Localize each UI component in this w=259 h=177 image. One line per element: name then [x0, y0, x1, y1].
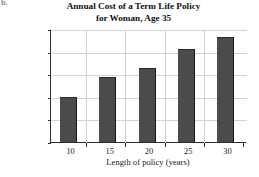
bar — [99, 77, 116, 142]
gridline-vertical — [86, 30, 87, 143]
x-tick-label: 15 — [95, 147, 125, 156]
bar — [178, 49, 195, 142]
chart-title-line-2: for Woman, Age 35 — [26, 13, 241, 25]
bar — [217, 37, 234, 142]
plot-inner: 050100150200250 1015202530 — [51, 30, 246, 142]
y-tick-mark — [48, 120, 52, 121]
plot-area: 050100150200250 1015202530 — [50, 30, 246, 143]
bar — [60, 97, 77, 142]
chart-title: Annual Cost of a Term Life Policy for Wo… — [26, 1, 241, 24]
y-tick-mark — [48, 143, 52, 144]
x-tick-label: 10 — [56, 147, 86, 156]
bar — [139, 68, 156, 142]
problem-part-label: b. — [1, 0, 7, 8]
x-tick-label: 30 — [212, 147, 242, 156]
x-tick-mark — [204, 143, 205, 147]
chart-title-line-1: Annual Cost of a Term Life Policy — [26, 1, 241, 13]
y-tick-mark — [48, 75, 52, 76]
x-axis-label: Length of policy (years) — [50, 158, 246, 167]
x-tick-mark — [243, 143, 244, 147]
x-tick-mark — [86, 143, 87, 147]
y-tick-mark — [48, 53, 52, 54]
x-tick-mark — [125, 143, 126, 147]
gridline-horizontal — [51, 30, 247, 31]
y-tick-mark — [48, 98, 52, 99]
x-tick-label: 20 — [134, 147, 164, 156]
y-tick-mark — [48, 30, 52, 31]
gridline-vertical — [125, 30, 126, 143]
bar-chart-figure: b. Annual Cost of a Term Life Policy for… — [0, 0, 259, 177]
gridline-vertical — [204, 30, 205, 143]
gridline-vertical — [165, 30, 166, 143]
x-tick-label: 25 — [173, 147, 203, 156]
x-tick-mark — [165, 143, 166, 147]
